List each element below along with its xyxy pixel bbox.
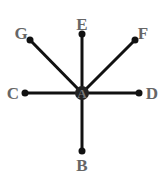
node-d (136, 90, 143, 97)
label-d: D (146, 84, 158, 103)
edge-a-f (82, 40, 135, 93)
label-a: A (77, 86, 87, 101)
label-g: G (14, 24, 27, 43)
label-f: F (138, 24, 148, 43)
star-graph-diagram: EFDBCGA (0, 0, 166, 177)
label-e: E (76, 15, 87, 34)
graph-svg: EFDBCGA (0, 0, 166, 177)
label-b: B (76, 156, 87, 175)
label-c: C (7, 84, 19, 103)
edge-a-g (30, 40, 82, 93)
node-c (22, 90, 29, 97)
node-b (79, 148, 86, 155)
